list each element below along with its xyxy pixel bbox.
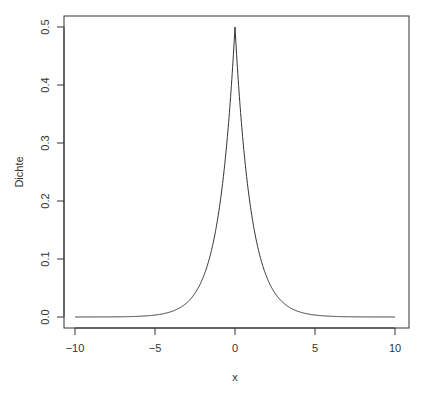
- y-tick-label: 0.3: [39, 135, 51, 150]
- x-tick-label: 10: [389, 342, 401, 354]
- y-tick-label: 0.1: [39, 251, 51, 266]
- x-axis-label: x: [232, 371, 238, 383]
- density-curve: [75, 27, 395, 317]
- y-axis-label: Dichte: [13, 156, 25, 187]
- y-tick-label: 0.4: [39, 77, 51, 92]
- x-axis: −10−50510: [66, 328, 401, 354]
- y-tick-label: 0.2: [39, 193, 51, 208]
- y-axis: 0.00.10.20.30.40.5: [39, 19, 64, 324]
- x-tick-label: −5: [149, 342, 162, 354]
- y-tick-label: 0.5: [39, 19, 51, 34]
- plot-box: [64, 16, 409, 328]
- y-tick-label: 0.0: [39, 309, 51, 324]
- x-tick-label: 0: [232, 342, 238, 354]
- x-tick-label: 5: [312, 342, 318, 354]
- density-chart: −10−50510 0.00.10.20.30.40.5 x Dichte: [0, 0, 425, 394]
- x-tick-label: −10: [66, 342, 85, 354]
